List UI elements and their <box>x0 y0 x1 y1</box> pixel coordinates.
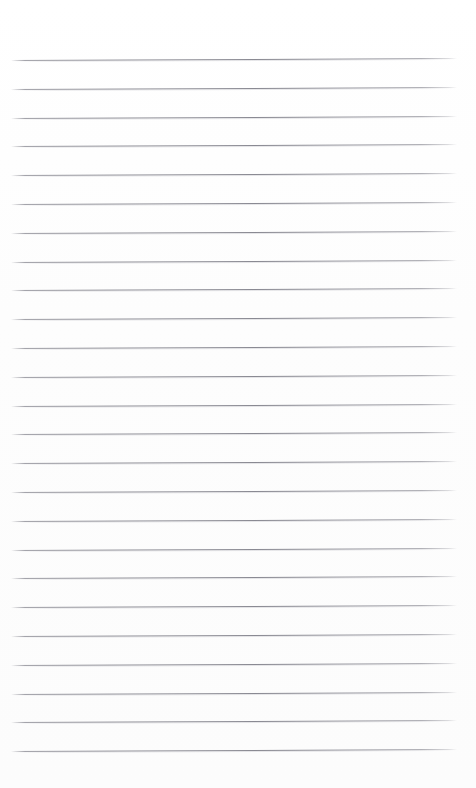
ruled-line <box>11 202 457 205</box>
ruled-line <box>11 173 457 176</box>
ruled-line <box>11 346 457 349</box>
ruled-line <box>11 317 457 320</box>
ruled-line <box>11 519 457 522</box>
ruled-line <box>11 692 457 695</box>
ruled-line <box>11 375 457 378</box>
ruled-line <box>11 58 457 61</box>
ruled-line <box>11 87 457 90</box>
ruled-line <box>11 404 457 407</box>
ruled-line <box>11 288 457 291</box>
ruled-line <box>11 634 457 637</box>
ruled-line <box>11 116 457 119</box>
ruled-line <box>11 432 457 435</box>
lined-paper-page: Blank Lined Paper <box>0 0 476 788</box>
ruled-line <box>11 605 457 608</box>
ruled-line <box>11 548 457 551</box>
ruled-line <box>11 749 457 752</box>
ruled-line <box>11 490 457 493</box>
ruled-line <box>11 576 457 579</box>
ruled-line <box>11 720 457 723</box>
ruled-line <box>11 231 457 234</box>
ruled-line <box>11 461 457 464</box>
ruled-line <box>11 260 457 263</box>
ruled-lines-container <box>0 0 476 788</box>
ruled-line <box>11 663 457 666</box>
ruled-line <box>11 144 457 147</box>
